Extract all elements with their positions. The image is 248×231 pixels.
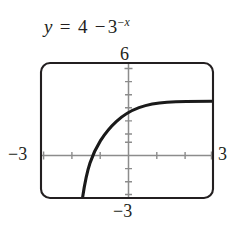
screen-frame (41, 63, 213, 198)
window-label-right: 3 (218, 145, 227, 163)
window-label-top: 6 (120, 45, 129, 63)
window-label-bottom: −3 (113, 202, 132, 220)
figure-container: y = 4 −3−x (0, 0, 248, 231)
calculator-screen (0, 0, 248, 231)
window-label-left: −3 (8, 145, 27, 163)
